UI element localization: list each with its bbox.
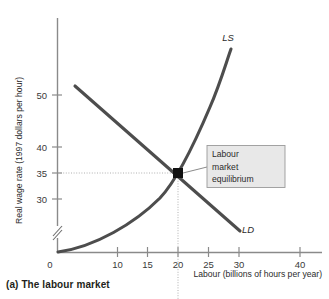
x-axis-title: Labour (billions of hours per year) bbox=[194, 269, 323, 279]
y-tick-label-40: 40 bbox=[36, 142, 47, 153]
labour-market-chart: 50 40 35 30 0 10 15 20 25 30 40 Real wag… bbox=[0, 0, 329, 299]
x-tick-label-0: 0 bbox=[47, 259, 52, 270]
figure-labour-market: 50 40 35 30 0 10 15 20 25 30 40 Real wag… bbox=[0, 0, 329, 299]
y-axis-title: Real wage rate (1997 dollars per hour) bbox=[14, 77, 24, 224]
callout-line-3: equilibrium bbox=[212, 174, 254, 184]
equilibrium-point-marker bbox=[173, 168, 183, 178]
y-tick-label-35: 35 bbox=[36, 168, 47, 179]
y-tick-labels-group: 50 40 35 30 bbox=[36, 90, 47, 205]
y-tick-label-30: 30 bbox=[36, 194, 47, 205]
curve-label-ls: LS bbox=[222, 32, 234, 43]
y-tick-label-50: 50 bbox=[36, 90, 47, 101]
callout-leader-line bbox=[183, 167, 207, 173]
curve-label-ld: LD bbox=[242, 224, 254, 235]
callout-line-2: market bbox=[212, 162, 239, 172]
curve-labour-supply bbox=[58, 49, 231, 252]
equilibrium-callout: Labour market equilibrium bbox=[207, 146, 285, 188]
figure-caption: (a) The labour market bbox=[6, 279, 110, 290]
x-tick-label-15: 15 bbox=[142, 259, 153, 270]
callout-line-1: Labour bbox=[212, 149, 239, 159]
axes-group bbox=[53, 18, 322, 253]
x-tick-label-10: 10 bbox=[112, 259, 123, 270]
